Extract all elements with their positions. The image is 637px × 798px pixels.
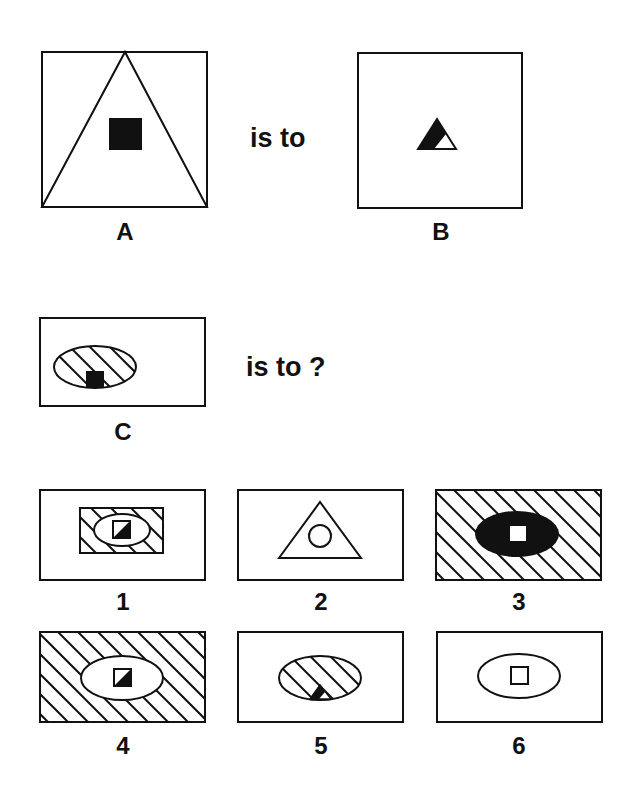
figure-c — [38, 315, 208, 410]
option-label-6: 6 — [489, 732, 549, 760]
option-label-4: 4 — [93, 732, 153, 760]
option-1[interactable] — [38, 487, 208, 583]
option-5[interactable] — [236, 629, 406, 725]
option-label-3: 3 — [489, 588, 549, 616]
is-to-text-1: is to — [250, 123, 306, 154]
label-a: A — [95, 218, 155, 246]
figure-a — [40, 48, 210, 210]
label-b: B — [411, 218, 471, 246]
option-2[interactable] — [236, 487, 406, 583]
is-to-question-text: is to ? — [246, 352, 326, 383]
option-4[interactable] — [38, 629, 208, 725]
option-label-5: 5 — [291, 732, 351, 760]
option-label-1: 1 — [93, 588, 153, 616]
option-6[interactable] — [434, 629, 604, 725]
option-label-2: 2 — [291, 588, 351, 616]
option-3[interactable] — [434, 487, 604, 583]
label-c: C — [93, 418, 153, 446]
figure-b — [356, 50, 526, 212]
